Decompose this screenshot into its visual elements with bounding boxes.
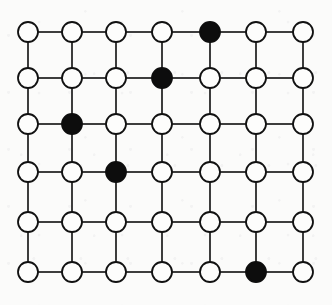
open-node-r0-c3 bbox=[152, 22, 172, 42]
open-node-r1-c4 bbox=[200, 68, 220, 88]
open-node-r5-c0 bbox=[18, 262, 38, 282]
open-node-r4-c6 bbox=[293, 212, 313, 232]
open-node-r1-c2 bbox=[106, 68, 126, 88]
open-node-r5-c4 bbox=[200, 262, 220, 282]
open-node-r3-c3 bbox=[152, 162, 172, 182]
filled-node-r0-c4 bbox=[200, 22, 220, 42]
open-node-r5-c1 bbox=[62, 262, 82, 282]
lattice-graph-canvas bbox=[0, 0, 332, 305]
open-node-r5-c6 bbox=[293, 262, 313, 282]
open-node-r0-c2 bbox=[106, 22, 126, 42]
open-node-r0-c5 bbox=[246, 22, 266, 42]
open-node-r4-c0 bbox=[18, 212, 38, 232]
open-node-r3-c5 bbox=[246, 162, 266, 182]
open-node-r3-c1 bbox=[62, 162, 82, 182]
open-node-r4-c4 bbox=[200, 212, 220, 232]
open-node-r4-c5 bbox=[246, 212, 266, 232]
filled-node-r1-c3 bbox=[152, 68, 172, 88]
open-node-r2-c5 bbox=[246, 114, 266, 134]
open-node-r2-c6 bbox=[293, 114, 313, 134]
open-node-r0-c6 bbox=[293, 22, 313, 42]
open-node-r1-c6 bbox=[293, 68, 313, 88]
open-node-r1-c1 bbox=[62, 68, 82, 88]
open-node-r4-c3 bbox=[152, 212, 172, 232]
lattice-figure bbox=[0, 0, 332, 305]
open-node-r3-c4 bbox=[200, 162, 220, 182]
open-node-r5-c3 bbox=[152, 262, 172, 282]
open-node-r0-c1 bbox=[62, 22, 82, 42]
open-node-r1-c5 bbox=[246, 68, 266, 88]
open-node-r3-c6 bbox=[293, 162, 313, 182]
open-node-r0-c0 bbox=[18, 22, 38, 42]
open-node-r1-c0 bbox=[18, 68, 38, 88]
open-node-r5-c2 bbox=[106, 262, 126, 282]
filled-node-r5-c5 bbox=[246, 262, 266, 282]
open-node-r2-c3 bbox=[152, 114, 172, 134]
open-node-r2-c2 bbox=[106, 114, 126, 134]
filled-node-r3-c2 bbox=[106, 162, 126, 182]
open-node-r4-c1 bbox=[62, 212, 82, 232]
node-layer bbox=[18, 22, 313, 282]
open-node-r4-c2 bbox=[106, 212, 126, 232]
open-node-r2-c0 bbox=[18, 114, 38, 134]
filled-node-r2-c1 bbox=[62, 114, 82, 134]
open-node-r3-c0 bbox=[18, 162, 38, 182]
open-node-r2-c4 bbox=[200, 114, 220, 134]
